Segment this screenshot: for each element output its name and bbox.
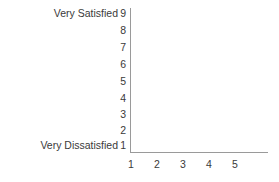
y-axis-tick-label: 3 bbox=[112, 109, 126, 120]
y-axis-low-anchor-label: Very Dissatisfied bbox=[0, 140, 118, 151]
chart-container: Very Satisfied Very Dissatisfied 9 8 7 6… bbox=[0, 0, 279, 182]
x-axis-tick-label: 5 bbox=[226, 159, 244, 170]
y-axis-tick-label: 2 bbox=[112, 125, 126, 136]
y-axis-tick-label: 9 bbox=[112, 8, 126, 19]
y-axis-tick-label: 1 bbox=[112, 140, 126, 151]
x-axis-tick-label: 4 bbox=[200, 159, 218, 170]
y-axis-tick-label: 5 bbox=[112, 76, 126, 87]
y-axis-tick-label: 8 bbox=[112, 25, 126, 36]
x-axis-tick-label: 2 bbox=[148, 159, 166, 170]
x-axis-tick-label: 1 bbox=[122, 159, 140, 170]
y-axis-tick-label: 6 bbox=[112, 59, 126, 70]
plot-area bbox=[131, 8, 268, 152]
y-axis-tick-label: 7 bbox=[112, 42, 126, 53]
x-axis-line bbox=[130, 152, 268, 153]
x-axis-tick-label: 3 bbox=[174, 159, 192, 170]
y-axis-tick-label: 4 bbox=[112, 93, 126, 104]
y-axis-high-anchor-label: Very Satisfied bbox=[0, 8, 118, 19]
